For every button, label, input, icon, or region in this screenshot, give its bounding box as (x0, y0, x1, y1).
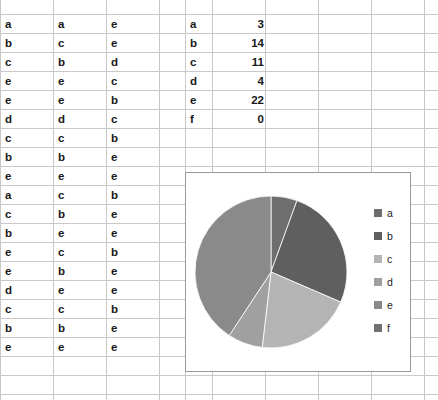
summary-count-cell[interactable]: 11 (212, 53, 271, 71)
data-cell-col-b[interactable]: c (53, 300, 106, 318)
data-cell-col-a[interactable]: b (0, 224, 53, 242)
grid-column-line (424, 0, 425, 400)
data-cell-col-a[interactable]: e (0, 338, 53, 356)
data-cell-col-b[interactable]: b (53, 205, 106, 223)
data-cell-col-c[interactable]: b (106, 129, 159, 147)
data-cell-col-a[interactable]: e (0, 167, 53, 185)
spreadsheet-screen: abceedcbeacbeedcbeacbeedcbecbecbecbeeedc… (0, 0, 438, 400)
data-cell-col-c[interactable]: b (106, 186, 159, 204)
data-cell-col-c[interactable]: e (106, 148, 159, 166)
data-cell-col-a[interactable]: e (0, 262, 53, 280)
summary-count-cell[interactable]: 14 (212, 34, 271, 52)
data-cell-col-c[interactable]: e (106, 167, 159, 185)
data-cell-col-c[interactable]: e (106, 338, 159, 356)
grid-row-line (0, 375, 438, 376)
legend-swatch-icon (374, 324, 382, 332)
legend-label: c (387, 253, 392, 265)
chart-legend: abcdef (374, 201, 414, 339)
data-cell-col-b[interactable]: c (53, 186, 106, 204)
data-cell-col-c[interactable]: e (106, 262, 159, 280)
legend-label: d (387, 276, 393, 288)
summary-label-cell[interactable]: d (185, 72, 214, 90)
data-cell-col-b[interactable]: e (53, 167, 106, 185)
legend-item-c[interactable]: c (374, 247, 414, 270)
data-cell-col-c[interactable]: b (106, 300, 159, 318)
legend-swatch-icon (374, 232, 382, 240)
data-cell-col-b[interactable]: c (53, 34, 106, 52)
data-cell-col-a[interactable]: c (0, 53, 53, 71)
legend-item-f[interactable]: f (374, 316, 414, 339)
data-cell-col-a[interactable]: e (0, 243, 53, 261)
data-cell-col-c[interactable]: b (106, 91, 159, 109)
data-cell-col-b[interactable]: a (53, 15, 106, 33)
legend-label: b (387, 230, 393, 242)
legend-item-b[interactable]: b (374, 224, 414, 247)
legend-label: f (387, 322, 390, 334)
summary-label-cell[interactable]: c (185, 53, 214, 71)
data-cell-col-b[interactable]: e (53, 281, 106, 299)
summary-label-cell[interactable]: e (185, 91, 214, 109)
data-cell-col-b[interactable]: b (53, 53, 106, 71)
data-cell-col-a[interactable]: b (0, 319, 53, 337)
summary-count-cell[interactable]: 3 (212, 15, 271, 33)
summary-count-cell[interactable]: 0 (212, 110, 271, 128)
data-cell-col-a[interactable]: a (0, 186, 53, 204)
summary-label-cell[interactable]: b (185, 34, 214, 52)
data-cell-col-b[interactable]: e (53, 91, 106, 109)
pie-chart-svg (194, 185, 349, 360)
legend-label: e (387, 299, 393, 311)
data-cell-col-c[interactable]: c (106, 110, 159, 128)
data-cell-col-a[interactable]: a (0, 15, 53, 33)
summary-label-cell[interactable]: f (185, 110, 214, 128)
legend-swatch-icon (374, 209, 382, 217)
data-cell-col-a[interactable]: d (0, 110, 53, 128)
summary-count-cell[interactable]: 22 (212, 91, 271, 109)
grid-row-line (0, 394, 438, 395)
legend-swatch-icon (374, 301, 382, 309)
data-cell-col-c[interactable]: e (106, 34, 159, 52)
data-cell-col-b[interactable]: e (53, 72, 106, 90)
legend-swatch-icon (374, 278, 382, 286)
data-cell-col-b[interactable]: e (53, 224, 106, 242)
data-cell-col-b[interactable]: c (53, 243, 106, 261)
legend-item-a[interactable]: a (374, 201, 414, 224)
data-cell-col-a[interactable]: b (0, 148, 53, 166)
summary-count-cell[interactable]: 4 (212, 72, 271, 90)
data-cell-col-c[interactable]: e (106, 224, 159, 242)
data-cell-col-c[interactable]: e (106, 319, 159, 337)
pie-chart-object[interactable]: abcdef (185, 172, 411, 372)
data-cell-col-b[interactable]: b (53, 319, 106, 337)
data-cell-col-c[interactable]: c (106, 72, 159, 90)
data-cell-col-a[interactable]: c (0, 205, 53, 223)
data-cell-col-a[interactable]: e (0, 91, 53, 109)
legend-item-d[interactable]: d (374, 270, 414, 293)
data-cell-col-a[interactable]: c (0, 129, 53, 147)
data-cell-col-b[interactable]: b (53, 148, 106, 166)
data-cell-col-b[interactable]: e (53, 338, 106, 356)
legend-swatch-icon (374, 255, 382, 263)
data-cell-col-a[interactable]: c (0, 300, 53, 318)
summary-label-cell[interactable]: a (185, 15, 214, 33)
legend-item-e[interactable]: e (374, 293, 414, 316)
data-cell-col-a[interactable]: e (0, 72, 53, 90)
data-cell-col-c[interactable]: e (106, 15, 159, 33)
data-cell-col-a[interactable]: b (0, 34, 53, 52)
data-cell-col-b[interactable]: c (53, 129, 106, 147)
data-cell-col-c[interactable]: b (106, 243, 159, 261)
data-cell-col-c[interactable]: d (106, 53, 159, 71)
legend-label: a (387, 207, 393, 219)
data-cell-col-b[interactable]: d (53, 110, 106, 128)
pie-plot-area (194, 185, 349, 360)
grid-column-line (159, 0, 160, 400)
data-cell-col-a[interactable]: d (0, 281, 53, 299)
data-cell-col-c[interactable]: e (106, 281, 159, 299)
data-cell-col-c[interactable]: e (106, 205, 159, 223)
data-cell-col-b[interactable]: b (53, 262, 106, 280)
